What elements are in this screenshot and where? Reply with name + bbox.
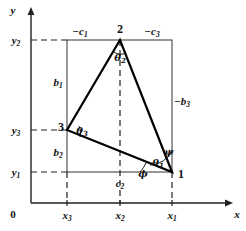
angle-label-theta1: θ1: [152, 158, 164, 168]
y-tick-label-y3: y3: [12, 125, 21, 136]
triangle-coordinate-diagram: y x 0 x3 x2 x1 y2 y3 y1 −c1 −c3 b1 b2 −b…: [0, 0, 246, 231]
side-label-b2: b2: [53, 147, 62, 158]
y-tick-label-y1: y1: [12, 167, 21, 178]
x-tick-label-x2: x2: [115, 210, 124, 221]
vertex-label-1: 1: [178, 168, 184, 180]
side-label-c2: c2: [116, 178, 125, 189]
side-label-minus-c1: −c1: [72, 26, 87, 37]
x-tick-label-x1: x1: [167, 210, 176, 221]
angle-label-phi: ϕ: [138, 169, 147, 179]
x-tick-label-x3: x3: [62, 210, 71, 221]
vertex-label-2: 2: [117, 23, 123, 35]
side-label-b1: b1: [53, 77, 62, 88]
y-tick-label-y2: y2: [12, 35, 21, 46]
diagram-canvas: [0, 0, 246, 231]
y-axis-arrowhead: [28, 7, 35, 15]
angle-label-theta2: θ2: [114, 53, 126, 63]
origin-label: 0: [10, 209, 16, 220]
x-axis-arrowhead: [225, 200, 233, 207]
vertex-label-3: 3: [58, 121, 64, 133]
x-axis-label: x: [234, 209, 240, 220]
y-axis-label: y: [11, 5, 16, 16]
side-label-minus-c3: −c3: [144, 26, 159, 37]
angle-label-theta3: θ3: [76, 126, 88, 136]
side-label-minus-b3: −b3: [174, 96, 190, 107]
angle-label-psi: ψ: [165, 147, 174, 157]
